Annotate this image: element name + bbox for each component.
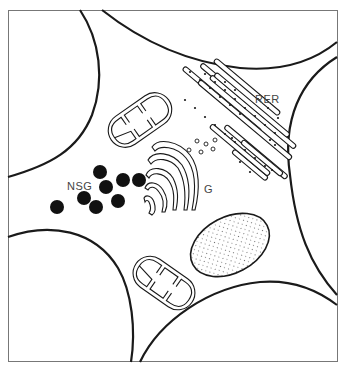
stippled-organelle — [180, 201, 280, 290]
rough-endoplasmic-reticulum — [182, 58, 297, 181]
cell-diagram: RER G NSG — [0, 0, 347, 371]
label-golgi: G — [204, 183, 213, 195]
neighbor-cell-upper-left — [8, 10, 99, 177]
neighbor-cell-lower-right — [140, 282, 337, 362]
neighbor-cell-lower-left — [8, 230, 133, 362]
mitochondrion-upper — [102, 86, 179, 154]
neighbor-cell-right — [288, 57, 337, 295]
label-rer: RER — [255, 93, 280, 105]
label-nsg: NSG — [67, 180, 92, 192]
small-vesicles — [187, 138, 217, 154]
secretory-granules — [50, 165, 146, 214]
golgi-apparatus — [144, 142, 198, 215]
